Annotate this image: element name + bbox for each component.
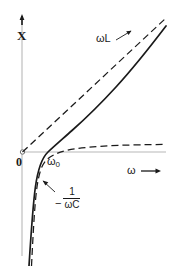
x-axis-label: ω <box>127 165 136 176</box>
omega-l-label: ωL <box>96 33 111 44</box>
resonance-label: ω0 <box>47 156 60 169</box>
fraction-numerator: 1 <box>67 187 77 198</box>
fraction-denominator: ωC <box>63 200 80 211</box>
minus-sign: − <box>55 198 61 209</box>
arrow-right-icon <box>141 168 161 173</box>
fraction: 1 ωC <box>63 187 80 210</box>
y-axis-label: X <box>17 29 26 42</box>
arrow-up-icon <box>20 14 25 25</box>
resonance-label-base: ω <box>47 155 56 167</box>
resonance-label-subscript: 0 <box>56 160 60 169</box>
origin-label: 0 <box>16 156 22 168</box>
negative-inverse-omega-c-label: − 1 ωC <box>55 187 80 210</box>
omega-l-asymptote-line <box>23 18 167 152</box>
total-reactance-curve <box>29 26 166 266</box>
reactance-figure: X 0 ωL ω0 ω − 1 ωC <box>0 0 169 266</box>
